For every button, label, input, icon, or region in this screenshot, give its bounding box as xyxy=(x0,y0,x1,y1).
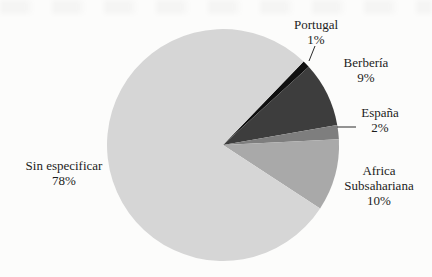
slice-name: Portugal xyxy=(276,17,356,32)
leader-line-portugal xyxy=(309,46,315,61)
pie-chart xyxy=(0,0,432,277)
slice-name: Sin especificar xyxy=(14,158,114,173)
slice-label-berberia: Berbería 9% xyxy=(326,55,406,85)
slice-pct: 2% xyxy=(340,120,420,135)
pie-chart-figure: Portugal 1% Berbería 9% España 2% Africa… xyxy=(0,0,432,277)
slice-name: España xyxy=(340,105,420,120)
slice-label-portugal: Portugal 1% xyxy=(276,17,356,47)
slice-pct: 78% xyxy=(14,173,114,188)
slice-name: Africa xyxy=(334,163,424,178)
slice-pct: 10% xyxy=(334,193,424,208)
slice-label-espana: España 2% xyxy=(340,105,420,135)
slice-name-2: Subsahariana xyxy=(334,178,424,193)
slice-label-africa-subsahariana: Africa Subsahariana 10% xyxy=(334,163,424,208)
slice-label-sin-especificar: Sin especificar 78% xyxy=(14,158,114,188)
slice-pct: 9% xyxy=(326,70,406,85)
slice-name: Berbería xyxy=(326,55,406,70)
slice-pct: 1% xyxy=(276,32,356,47)
